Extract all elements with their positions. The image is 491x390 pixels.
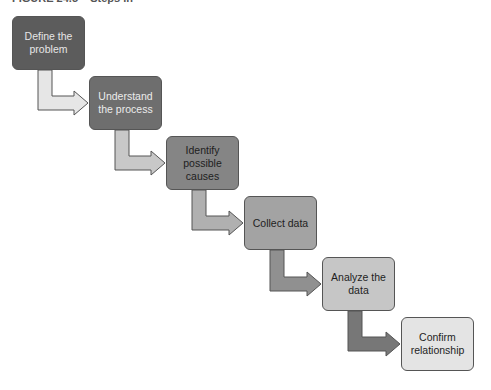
elbow-arrow-icon <box>38 70 88 115</box>
elbow-arrow-icon <box>192 190 243 235</box>
elbow-arrow-icon <box>115 130 165 175</box>
process-step-box: Collect data <box>244 196 317 250</box>
process-step-box: Identify possible causes <box>166 136 239 190</box>
process-step-box: Define the problem <box>12 16 85 70</box>
process-step-box: Analyze the data <box>322 257 395 311</box>
process-step-box: Confirm relationship <box>401 317 474 371</box>
elbow-arrow-icon <box>270 250 321 296</box>
elbow-arrow-icon <box>348 311 400 356</box>
process-step-box: Understand the process <box>89 76 162 130</box>
